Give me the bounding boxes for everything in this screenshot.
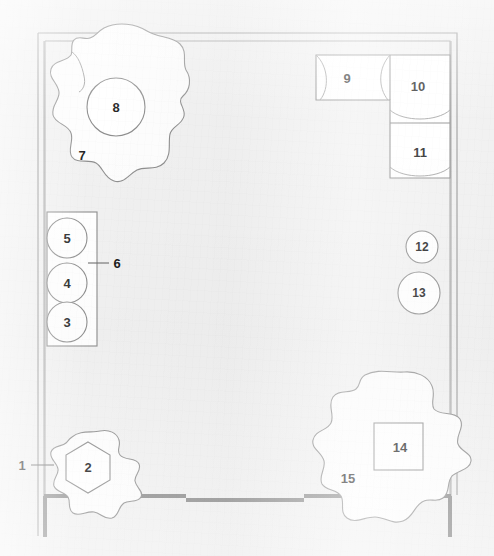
sofa-l-outline (316, 55, 450, 178)
label-9: 9 (343, 71, 350, 86)
floor-plan-drawing: .wall-thin { fill:none; stroke:#9d9d9d; … (0, 0, 494, 556)
sofa-group-top-right (316, 55, 450, 178)
label-15: 15 (341, 471, 355, 486)
label-12: 12 (415, 240, 429, 254)
label-7: 7 (78, 148, 85, 163)
seat-row-left-6 (47, 212, 97, 346)
tree-top-left (50, 24, 189, 182)
label-1: 1 (18, 458, 25, 473)
label-4: 4 (63, 276, 71, 291)
label-10: 10 (411, 79, 425, 94)
label-6: 6 (113, 256, 120, 271)
label-11: 11 (413, 145, 427, 160)
floor-plan-canvas: .wall-thin { fill:none; stroke:#9d9d9d; … (0, 0, 494, 556)
planter-bottom-left (51, 430, 142, 518)
label-3: 3 (63, 315, 70, 330)
label-5: 5 (63, 231, 70, 246)
label-13: 13 (412, 286, 426, 300)
label-2: 2 (84, 460, 91, 475)
label-14: 14 (393, 440, 408, 455)
label-8: 8 (112, 100, 119, 115)
